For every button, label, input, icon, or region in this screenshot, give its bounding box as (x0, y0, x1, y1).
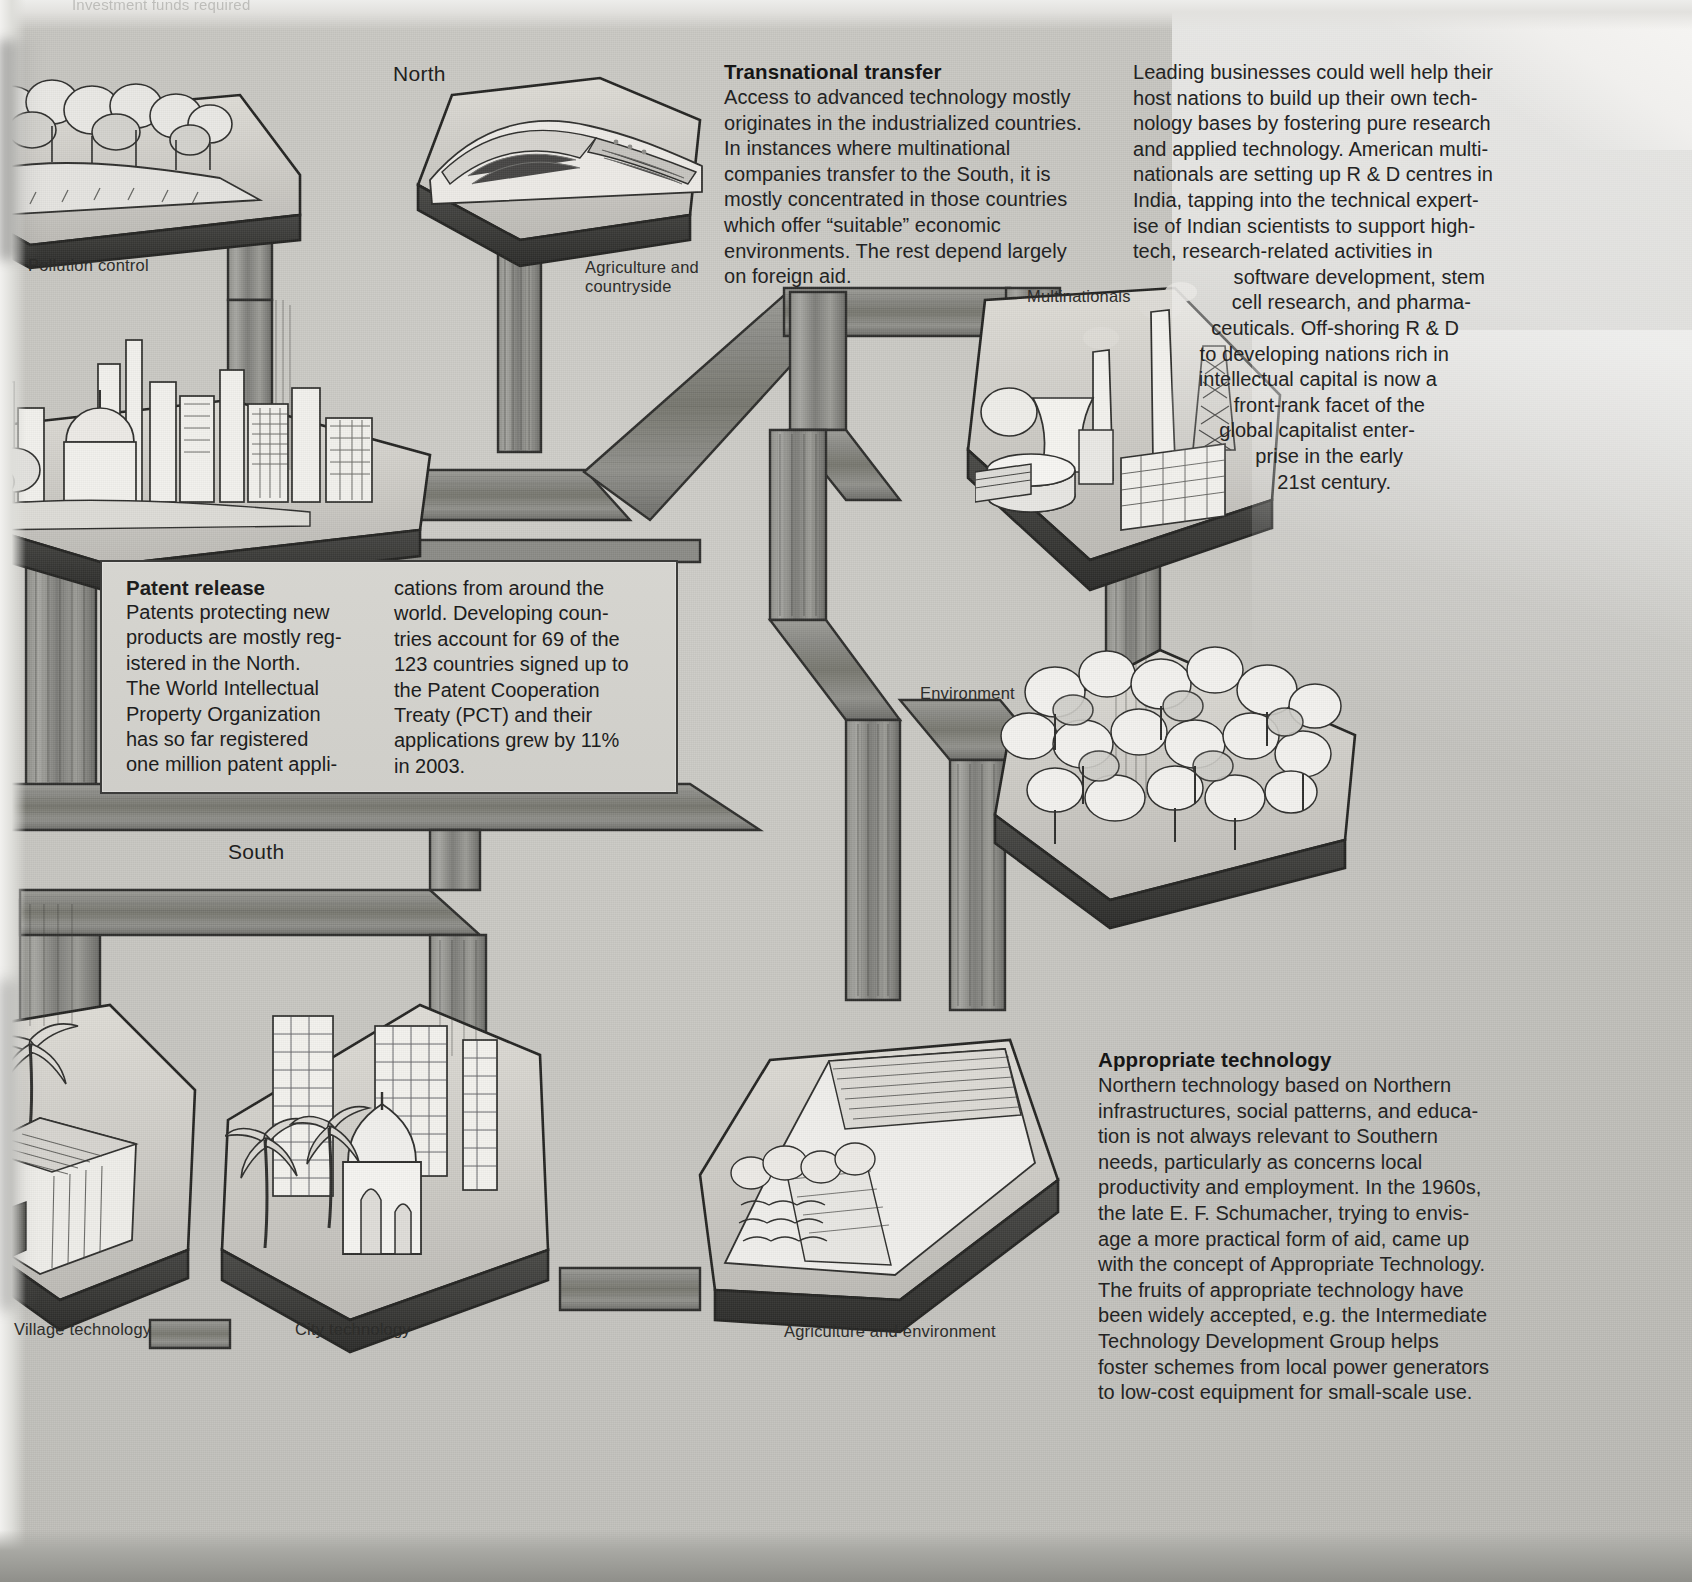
appropriate-line-4: productivity and employment. In the 1960… (1098, 1175, 1518, 1201)
appropriate-line-8: The fruits of appropriate technology hav… (1098, 1278, 1518, 1304)
appropriate-line-3: needs, particularly as concerns local (1098, 1150, 1518, 1176)
leading-line-1: host nations to build up their own tech- (1133, 86, 1505, 112)
appropriate-line-11: foster schemes from local power generato… (1098, 1355, 1518, 1381)
leading-line-16: 21st century. (1133, 470, 1391, 496)
patent-left-line-2: istered in the North. (126, 651, 370, 676)
transnational-transfer-body: Access to advanced technology mostly ori… (724, 85, 1094, 290)
pollution-control-illustration (0, 70, 300, 230)
patent-left-line-3: The World Intellectual (126, 676, 370, 701)
patent-left-line-0: Patents protecting new (126, 600, 370, 625)
leading-line-14: global capitalist enter- (1133, 418, 1415, 444)
appropriate-line-5: the late E. F. Schumacher, trying to env… (1098, 1201, 1518, 1227)
caption-agriculture-environment: Agriculture and environment (784, 1322, 996, 1341)
leading-line-6: ise of Indian scientists to support high… (1133, 214, 1505, 240)
caption-environment: Environment (920, 684, 1015, 703)
cropped-header-text: Investment funds required (72, 0, 250, 13)
leading-line-5: India, tapping into the technical expert… (1133, 188, 1505, 214)
patent-release-right-column: cations from around the world. Developin… (394, 576, 638, 779)
city-technology-illustration (225, 1000, 565, 1300)
patent-left-line-1: products are mostly reg- (126, 625, 370, 650)
leading-line-9: cell research, and pharma- (1133, 290, 1471, 316)
appropriate-line-9: been widely accepted, e.g. the Intermedi… (1098, 1303, 1518, 1329)
patent-right-line-2: tries account for 69 of the (394, 627, 638, 652)
environment-forest-illustration (995, 640, 1365, 870)
appropriate-technology-block: Appropriate technology Northern technolo… (1098, 1048, 1518, 1406)
caption-pollution-control: Pollution control (28, 256, 149, 275)
appropriate-line-10: Technology Development Group helps (1098, 1329, 1518, 1355)
transnational-transfer-heading: Transnational transfer (724, 60, 1094, 84)
caption-line-2: countryside (585, 277, 735, 296)
appropriate-line-2: tion is not always relevant to Southern (1098, 1124, 1518, 1150)
leading-line-4: nationals are setting up R & D centres i… (1133, 162, 1505, 188)
region-label-north: North (393, 62, 446, 86)
patent-right-line-7: in 2003. (394, 754, 638, 779)
page-bottom-shadow (0, 1530, 1692, 1582)
appropriate-line-1: infrastructures, social patterns, and ed… (1098, 1099, 1518, 1125)
region-label-south: South (228, 840, 284, 864)
caption-city-technology: City technology (295, 1320, 411, 1339)
appropriate-line-6: age a more practical form of aid, came u… (1098, 1227, 1518, 1253)
scan-blur-artifact-upper (0, 40, 40, 260)
patent-right-line-6: applications grew by 11% (394, 728, 638, 753)
patent-right-line-4: the Patent Cooperation (394, 678, 638, 703)
transnational-transfer-block: Transnational transfer Access to advance… (724, 60, 1094, 290)
diagram-board: Investment funds required North South Po… (0, 0, 1692, 1582)
patent-release-heading: Patent release (126, 576, 370, 600)
patent-right-line-3: 123 countries signed up to (394, 652, 638, 677)
leading-line-8: software development, stem (1133, 265, 1485, 291)
patent-right-line-5: Treaty (PCT) and their (394, 703, 638, 728)
patent-left-line-4: Property Organization (126, 702, 370, 727)
leading-line-0: Leading businesses could well help their (1133, 60, 1505, 86)
leading-businesses-block: Leading businesses could well help their… (1133, 60, 1505, 495)
appropriate-line-0: Northern technology based on Northern (1098, 1073, 1518, 1099)
north-city-illustration (0, 330, 430, 545)
appropriate-line-7: with the concept of Appropriate Technolo… (1098, 1252, 1518, 1278)
leading-line-7: tech, research-related activities in (1133, 239, 1505, 265)
patent-release-left-column: Patent release Patents protecting new pr… (126, 576, 370, 779)
leading-line-12: intellectual capital is now a (1133, 367, 1437, 393)
leading-line-11: to developing nations rich in (1133, 342, 1449, 368)
caption-agriculture-countryside: Agriculture and countryside (585, 258, 735, 296)
leading-line-3: and applied technology. American multi- (1133, 137, 1505, 163)
leading-line-15: prise in the early (1133, 444, 1403, 470)
scan-blur-artifact-lower (0, 980, 34, 1310)
appropriate-technology-heading: Appropriate technology (1098, 1048, 1518, 1072)
leading-line-2: nology bases by fostering pure research (1133, 111, 1505, 137)
appropriate-line-12: to low-cost equipment for small-scale us… (1098, 1380, 1518, 1406)
caption-village-technology: Village technology (14, 1320, 151, 1339)
patent-right-line-0: cations from around the (394, 576, 638, 601)
scan-edge-top (0, 0, 1692, 30)
caption-line-1: Agriculture and (585, 258, 735, 277)
patent-right-line-1: world. Developing coun- (394, 601, 638, 626)
caption-multinationals: Multinationals (1027, 287, 1131, 306)
agriculture-countryside-illustration (420, 80, 710, 220)
patent-left-line-5: has so far registered (126, 727, 370, 752)
patent-release-box: Patent release Patents protecting new pr… (100, 560, 678, 794)
leading-line-10: ceuticals. Off-shoring R & D (1133, 316, 1459, 342)
leading-line-13: front-rank facet of the (1133, 393, 1425, 419)
agriculture-environment-illustration (705, 1045, 1065, 1315)
patent-left-line-6: one million patent appli- (126, 752, 370, 777)
